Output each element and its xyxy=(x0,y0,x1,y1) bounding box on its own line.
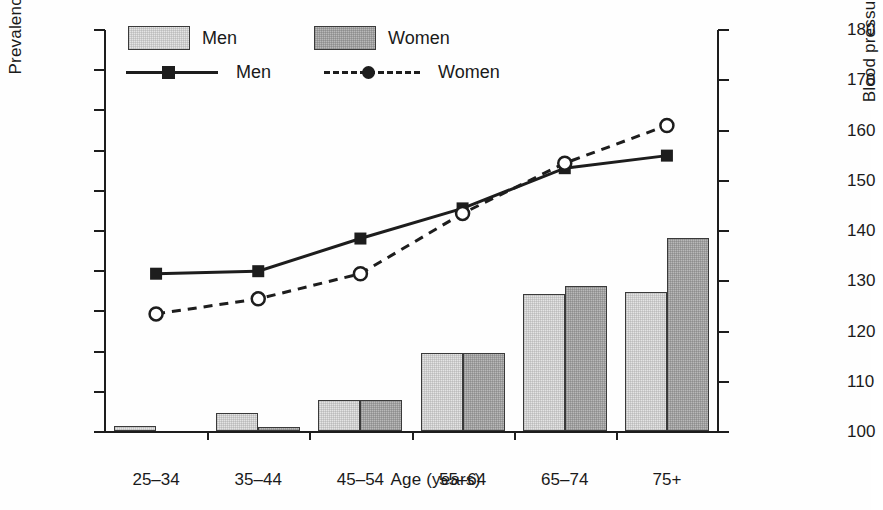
y-tick-left xyxy=(94,190,105,192)
x-tick-label-55–64: 55–64 xyxy=(439,470,486,490)
y-tick-right xyxy=(718,331,729,333)
x-axis-title: Age (years) xyxy=(0,470,871,490)
y-tick-left xyxy=(94,69,105,71)
legend-row-lines: Men Women xyxy=(118,58,548,86)
x-tick-label-45–54: 45–54 xyxy=(337,470,384,490)
x-tick-label-65–74: 65–74 xyxy=(541,470,588,490)
x-tick-label-75+: 75+ xyxy=(652,470,681,490)
y-tick-left xyxy=(94,29,105,31)
legend-label-bar-men: Men xyxy=(202,27,237,49)
marker-women-75+ xyxy=(660,119,673,132)
y-tick-right xyxy=(718,431,729,433)
y-tick-left xyxy=(94,391,105,393)
x-axis-separator xyxy=(207,431,209,440)
legend-label-line-women: Women xyxy=(438,61,500,83)
legend-row-bars: Men Women xyxy=(118,24,548,52)
y-tick-label-right: 100 xyxy=(847,423,883,440)
y-tick-left xyxy=(94,230,105,232)
y-tick-label-right: 120 xyxy=(847,323,883,340)
x-axis-separator xyxy=(412,431,414,440)
y-axis-title-left: Prevalence (%) xyxy=(6,0,26,115)
y-tick-label-right: 150 xyxy=(847,172,883,189)
x-tick-label-35–44: 35–44 xyxy=(235,470,282,490)
line-women xyxy=(156,125,667,313)
marker-men-35–44 xyxy=(252,265,264,277)
x-axis-separator xyxy=(514,431,516,440)
y-tick-right xyxy=(718,79,729,81)
y-tick-right xyxy=(718,280,729,282)
legend-label-bar-women: Women xyxy=(388,27,450,49)
legend-marker-square-icon xyxy=(162,66,175,79)
y-tick-left xyxy=(94,109,105,111)
legend-swatch-bar-men xyxy=(128,26,190,50)
y-tick-left xyxy=(94,150,105,152)
plot-area: 0102030405060708090100 10011012013014015… xyxy=(105,30,718,432)
marker-women-45–54 xyxy=(354,267,367,280)
line-men xyxy=(156,156,667,274)
y-tick-label-right: 180 xyxy=(847,21,883,38)
y-tick-left xyxy=(94,351,105,353)
line-series-layer xyxy=(105,30,718,432)
y-tick-label-right: 160 xyxy=(847,122,883,139)
y-tick-right xyxy=(718,381,729,383)
marker-men-45–54 xyxy=(354,233,366,245)
chart-legend: Men Women Men Women xyxy=(118,24,548,88)
y-tick-left xyxy=(94,310,105,312)
y-tick-left xyxy=(94,270,105,272)
legend-swatch-bar-women xyxy=(314,26,376,50)
marker-men-75+ xyxy=(661,150,673,162)
x-tick-label-25–34: 25–34 xyxy=(132,470,179,490)
marker-women-55–64 xyxy=(456,207,469,220)
marker-women-25–34 xyxy=(150,307,163,320)
y-tick-label-right: 130 xyxy=(847,272,883,289)
y-tick-right xyxy=(718,230,729,232)
marker-women-35–44 xyxy=(252,292,265,305)
y-tick-right xyxy=(718,180,729,182)
legend-marker-circle-icon xyxy=(362,66,375,79)
legend-label-line-men: Men xyxy=(236,61,271,83)
x-axis-separator xyxy=(616,431,618,440)
y-tick-label-right: 140 xyxy=(847,222,883,239)
y-tick-left xyxy=(94,431,105,433)
y-axis-title-right: Blood pressure (mmHg) xyxy=(860,0,880,125)
y-tick-label-right: 110 xyxy=(847,373,883,390)
y-tick-right xyxy=(718,130,729,132)
marker-men-25–34 xyxy=(150,268,162,280)
y-tick-label-right: 170 xyxy=(847,71,883,88)
marker-women-65–74 xyxy=(558,157,571,170)
x-axis-separator xyxy=(309,431,311,440)
y-tick-right xyxy=(718,29,729,31)
